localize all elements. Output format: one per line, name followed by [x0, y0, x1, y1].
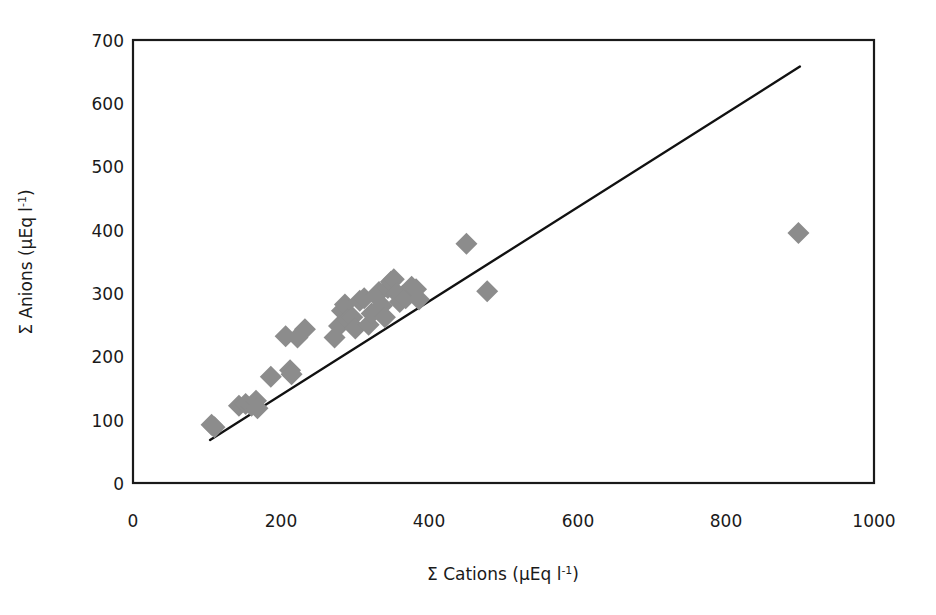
y-tick-label: 700	[92, 31, 124, 51]
x-tick-label: 0	[128, 511, 139, 531]
x-tick-label: 1000	[852, 511, 895, 531]
y-tick-label: 100	[92, 411, 124, 431]
y-tick-label: 500	[92, 157, 124, 177]
y-tick-label: 200	[92, 347, 124, 367]
svg-text:Σ Anions (μEq l-1): Σ Anions (μEq l-1)	[16, 189, 36, 334]
x-axis-title: Σ Cations (μEq l-1)	[427, 564, 579, 584]
x-axis-title-sup: -1	[561, 564, 572, 577]
svg-text:Σ Cations (μEq l-1): Σ Cations (μEq l-1)	[427, 564, 579, 584]
y-tick-label: 400	[92, 221, 124, 241]
y-tick-label: 600	[92, 94, 124, 114]
x-tick-label: 400	[413, 511, 445, 531]
x-tick-label: 600	[562, 511, 594, 531]
scatter-chart: 700 600 500 400 300 200 100 0 0 200 400 …	[0, 0, 936, 615]
y-tick-label: 0	[113, 474, 124, 494]
y-axis-title-main: Σ Anions (μEq l	[16, 207, 36, 335]
y-axis-title-sup: -1	[16, 196, 29, 207]
chart-background	[0, 0, 936, 615]
x-axis-title-main: Σ Cations (μEq l	[427, 564, 561, 584]
y-tick-label: 300	[92, 284, 124, 304]
y-axis-title: Σ Anions (μEq l-1)	[16, 189, 36, 334]
x-axis-title-tail: )	[572, 564, 579, 584]
y-axis-title-tail: )	[16, 189, 36, 196]
x-tick-label: 200	[265, 511, 297, 531]
x-tick-label: 800	[710, 511, 742, 531]
